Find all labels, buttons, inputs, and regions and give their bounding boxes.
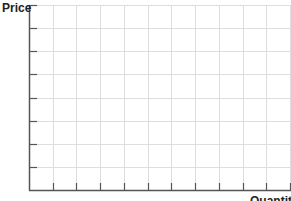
grid-lines [29, 5, 291, 190]
axes [29, 5, 291, 191]
y-axis-label: Price [2, 1, 31, 15]
axis-ticks [29, 6, 291, 191]
x-axis-label: Quantity [250, 194, 291, 201]
chart-plot-area [0, 0, 291, 201]
